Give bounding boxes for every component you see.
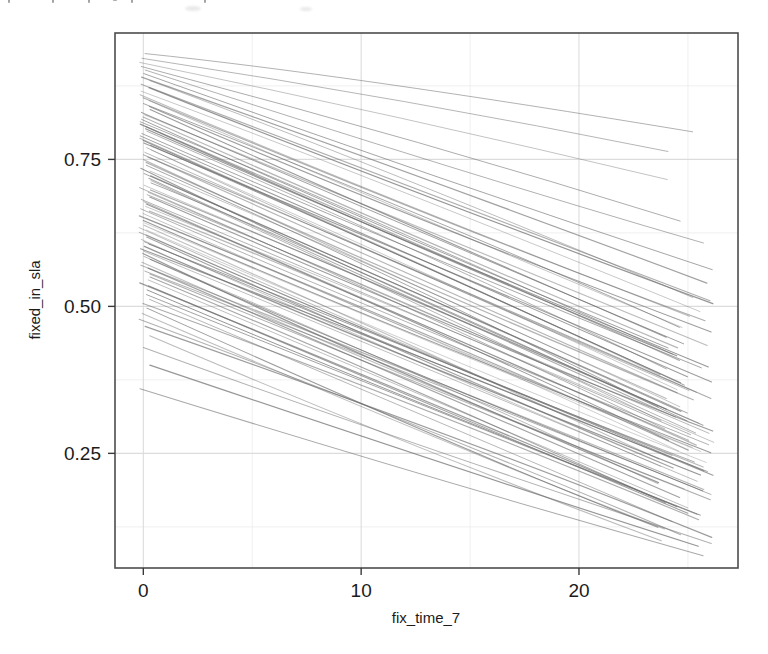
y-tick-label: 0.75 [64, 149, 101, 170]
y-tick-labels: 0.250.500.75 [64, 149, 101, 464]
x-axis-title: fix_time_7 [392, 609, 460, 626]
chart-figure: 01020 0.250.500.75 fix_time_7 fixed_in_s… [0, 0, 768, 654]
y-axis-title: fixed_in_sla [26, 260, 43, 340]
x-tick-label: 10 [351, 580, 372, 601]
plot-panel-background [115, 33, 738, 568]
x-tick-label: 0 [138, 580, 149, 601]
chart-svg: 01020 0.250.500.75 fix_time_7 fixed_in_s… [0, 0, 768, 654]
x-tick-labels: 01020 [138, 580, 590, 601]
x-tick-label: 20 [568, 580, 589, 601]
y-tick-label: 0.25 [64, 443, 101, 464]
y-tick-label: 0.50 [64, 296, 101, 317]
